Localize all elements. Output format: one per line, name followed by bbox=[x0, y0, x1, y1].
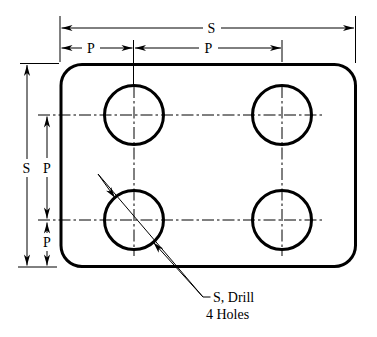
dim-s-top-label: S bbox=[208, 21, 216, 36]
callout-text-line2: 4 Holes bbox=[206, 307, 249, 322]
dim-p-left-upper-label: P bbox=[43, 161, 51, 176]
plate-outline bbox=[61, 65, 356, 267]
leader-arrow-lower bbox=[154, 243, 204, 298]
dim-s-top: S bbox=[62, 21, 355, 36]
centerlines bbox=[38, 86, 324, 256]
dim-s-left: S bbox=[23, 65, 31, 266]
dim-p-top-left-label: P bbox=[87, 41, 95, 56]
drawing-canvas: S P P S bbox=[0, 0, 377, 337]
dim-p-top-right-label: P bbox=[205, 41, 213, 56]
dim-p-top-left: P bbox=[62, 41, 133, 56]
technical-drawing: S P P S bbox=[0, 0, 377, 337]
dim-p-left-lower: P bbox=[43, 223, 51, 266]
leader-line bbox=[98, 174, 203, 297]
holes bbox=[105, 86, 312, 250]
dim-p-top-right: P bbox=[135, 41, 281, 56]
dim-p-left-upper: P bbox=[43, 117, 51, 219]
dim-p-left-lower-label: P bbox=[43, 235, 51, 250]
drawing-root: S P P S bbox=[18, 16, 356, 322]
leader-arrow-upper bbox=[98, 174, 115, 198]
callout-text-line1: S, Drill bbox=[213, 290, 254, 305]
extension-lines bbox=[18, 16, 356, 267]
dim-s-left-label: S bbox=[23, 161, 31, 176]
